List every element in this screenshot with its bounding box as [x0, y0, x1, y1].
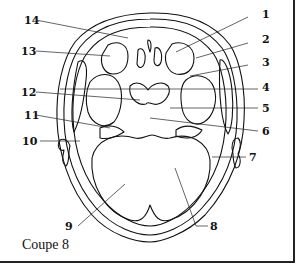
left-orbit [101, 43, 128, 74]
label-6: 6 [262, 126, 270, 137]
label-13: 13 [21, 46, 36, 57]
label-5: 5 [262, 103, 270, 114]
right-orbit [165, 43, 194, 75]
label-12: 12 [21, 87, 36, 98]
label-11: 11 [24, 110, 39, 121]
label-8: 8 [210, 221, 218, 232]
nasal-septum [148, 40, 151, 52]
right-temporal-lobe [181, 76, 216, 124]
label-9: 9 [65, 221, 73, 232]
leader-lines [36, 17, 258, 226]
left-temporal-lobe [86, 75, 121, 126]
label-1: 1 [262, 9, 270, 20]
frame-border-bottom [0, 261, 295, 263]
sella-region [130, 83, 170, 104]
label-10: 10 [22, 136, 37, 147]
frame-border-right [293, 0, 295, 263]
label-2: 2 [262, 34, 270, 45]
petrous-left [100, 126, 124, 139]
axial-head-section-drawing [0, 0, 301, 267]
figure-caption: Coupe 8 [22, 237, 69, 253]
label-7: 7 [249, 152, 257, 163]
cerebellum-outline [92, 135, 210, 221]
label-3: 3 [262, 57, 270, 68]
anatomical-section-figure: 1 2 3 4 5 6 7 8 9 10 11 12 13 14 Coupe 8 [0, 0, 301, 267]
label-4: 4 [262, 82, 270, 93]
inner-table-outline [73, 27, 226, 226]
label-14: 14 [24, 15, 39, 26]
